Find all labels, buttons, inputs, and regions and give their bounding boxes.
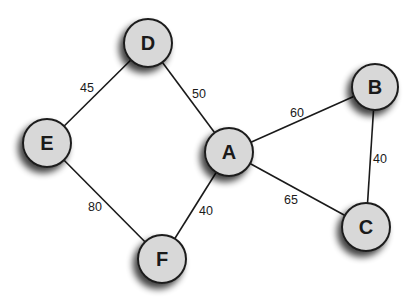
graph-diagram: 45506040658040 ABCDEF [0,0,418,305]
node-e: E [23,119,71,167]
node-d: D [124,19,172,67]
edge-weight-label-d-a: 50 [192,87,206,101]
nodes-layer: ABCDEF [23,19,398,283]
graph-svg: 45506040658040 ABCDEF [0,0,418,305]
edge-weight-label-a-c: 65 [284,193,298,207]
edge-weight-label-d-e: 45 [80,81,94,95]
node-label-f: F [156,248,168,270]
node-a: A [205,128,253,176]
node-label-d: D [141,32,155,54]
node-b: B [352,64,398,110]
edge-weight-label-e-f: 80 [88,200,102,214]
edge-weight-label-b-c: 40 [373,152,387,166]
node-f: F [138,235,186,283]
node-label-c: C [359,216,373,238]
node-label-b: B [368,76,382,98]
edge-weight-label-a-f: 40 [199,204,213,218]
node-c: C [342,203,390,251]
node-label-e: E [40,132,53,154]
node-label-a: A [222,141,236,163]
edge-weight-label-a-b: 60 [290,106,304,120]
